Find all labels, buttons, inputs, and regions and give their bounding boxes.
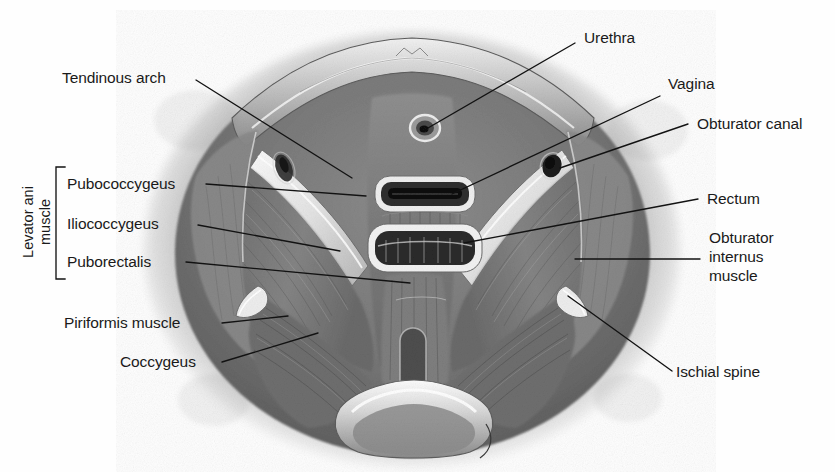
urethra-opening	[410, 115, 440, 141]
label-obturator-internus-muscle: Obturatorinternusmuscle	[709, 228, 774, 285]
levator-ani-group-label-line1: Levator ani	[20, 186, 36, 258]
anatomical-figure-canvas: Levator ani muscle Tendinous arch Puboco…	[0, 0, 835, 472]
levator-ani-group-label-line2: muscle	[37, 199, 53, 245]
label-obturator-internus-line2: internus	[709, 248, 763, 265]
label-piriformis-muscle: Piriformis muscle	[64, 313, 180, 332]
specimen-drawing	[144, 32, 688, 468]
label-obturator-internus-line1: Obturator	[709, 229, 774, 246]
levator-ani-group-label: Levator ani muscle	[20, 161, 54, 283]
label-iliococcygeus: Iliococcygeus	[67, 214, 159, 233]
label-urethra: Urethra	[584, 28, 635, 47]
label-coccygeus: Coccygeus	[120, 352, 196, 371]
label-pubococcygeus: Pubococcygeus	[67, 174, 175, 193]
label-obturator-canal: Obturator canal	[697, 114, 802, 133]
levator-ani-bracket	[56, 167, 65, 279]
label-ischial-spine: Ischial spine	[676, 362, 760, 381]
label-obturator-internus-line3: muscle	[709, 267, 758, 284]
rectum-opening	[368, 224, 482, 272]
vagina-opening	[375, 176, 475, 212]
anococcygeal-raphe	[381, 273, 449, 394]
label-puborectalis: Puborectalis	[67, 252, 151, 271]
label-vagina: Vagina	[668, 74, 715, 93]
label-tendinous-arch: Tendinous arch	[62, 68, 166, 87]
label-rectum: Rectum	[707, 189, 760, 208]
